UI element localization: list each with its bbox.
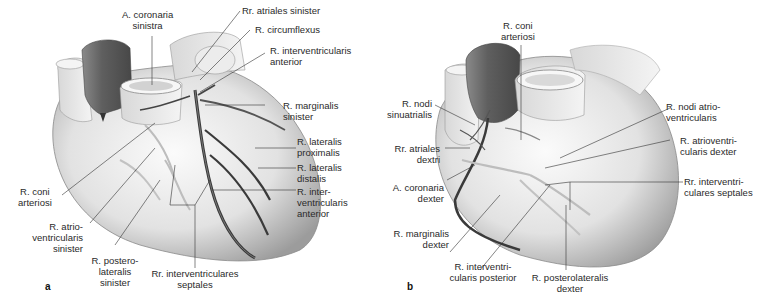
- label-line: proximalis: [297, 147, 342, 158]
- label-a-coronaria-sinistra: A. coronaria sinistra: [122, 9, 173, 31]
- label-line: R. circumflexus: [255, 24, 320, 35]
- label-line: sinister: [30, 243, 83, 254]
- label-r-nodi-sinuatrialis: R. nodi sinuatrialis: [374, 98, 432, 120]
- label-line: Rr. interventri-: [684, 176, 753, 187]
- label-line: culares septales: [684, 187, 753, 198]
- label-line: arteriosi: [18, 197, 52, 208]
- label-line: sinuatrialis: [374, 109, 432, 120]
- label-r-marginalis-sinister: R. marginalis sinister: [283, 100, 338, 122]
- label-line: arteriosi: [501, 31, 535, 42]
- label-line: dexter: [385, 239, 449, 250]
- label-r-posterolateralis-dexter: R. posterolateralis dexter: [528, 272, 612, 294]
- label-line: sinister: [90, 277, 140, 288]
- label-r-atrioventricularis-dexter: R. atrioventri- cularis dexter: [680, 135, 737, 157]
- label-line: ventricularis: [30, 232, 83, 243]
- label-line: anterior: [270, 56, 351, 67]
- label-line: dextri: [374, 154, 440, 165]
- label-r-coni-arteriosi-b: R. coni arteriosi: [501, 20, 535, 42]
- label-line: lateralis: [90, 266, 140, 277]
- label-line: R. lateralis: [297, 136, 342, 147]
- label-line: R. interventricularis: [270, 45, 351, 56]
- label-r-nodi-atrioventricularis: R. nodi atrio- ventricularis: [666, 101, 720, 123]
- label-line: R. postero-: [90, 255, 140, 266]
- label-line: R. atrio-: [30, 221, 83, 232]
- label-line: R. marginalis: [385, 228, 449, 239]
- label-r-interventricularis-anterior: R. inter- ventricularis anterior: [297, 186, 348, 219]
- label-rr-interventriculares-septales-b: Rr. interventri- culares septales: [684, 176, 753, 198]
- label-line: distalis: [297, 173, 342, 184]
- label-r-lateralis-proximalis: R. lateralis proximalis: [297, 136, 342, 158]
- label-line: Rr. atriales: [374, 143, 440, 154]
- label-rr-atriales-sinister: Rr. atriales sinister: [242, 5, 320, 16]
- label-line: sinister: [283, 111, 338, 122]
- heart-b: [436, 43, 679, 267]
- label-rr-interventriculares-septales-a: Rr. interventriculares septales: [150, 268, 240, 290]
- label-line: dexter: [370, 193, 444, 204]
- label-line: anterior: [297, 208, 348, 219]
- label-r-posterolateralis-sinister: R. postero- lateralis sinister: [90, 255, 140, 288]
- label-r-lateralis-distalis: R. lateralis distalis: [297, 162, 342, 184]
- label-line: cularis dexter: [680, 146, 737, 157]
- label-line: R. marginalis: [283, 100, 338, 111]
- label-line: R. atrioventri-: [680, 135, 737, 146]
- label-line: dexter: [528, 283, 612, 294]
- label-line: R. interventri-: [443, 261, 523, 272]
- label-r-atrioventricularis-sinister: R. atrio- ventricularis sinister: [30, 221, 83, 254]
- label-a-coronaria-dexter: A. coronaria dexter: [370, 182, 444, 204]
- label-line: cularis posterior: [443, 272, 523, 283]
- label-line: ventricularis: [297, 197, 348, 208]
- label-rr-atriales-dextri: Rr. atriales dextri: [374, 143, 440, 165]
- label-r-interventricularis-posterior: R. interventri- cularis posterior: [443, 261, 523, 283]
- label-line: R. coni: [501, 20, 535, 31]
- label-line: Rr. interventriculares: [150, 268, 240, 279]
- label-r-coni-arteriosi-a: R. coni arteriosi: [18, 186, 52, 208]
- label-r-marginalis-dexter: R. marginalis dexter: [385, 228, 449, 250]
- label-line: R. lateralis: [297, 162, 342, 173]
- label-line: A. coronaria: [122, 9, 173, 20]
- label-line: R. coni: [18, 186, 52, 197]
- label-line: R. inter-: [297, 186, 348, 197]
- label-line: sinistra: [122, 20, 173, 31]
- label-line: R. nodi: [374, 98, 432, 109]
- panel-letter-a: a: [45, 281, 51, 292]
- label-line: R. nodi atrio-: [666, 101, 720, 112]
- label-line: A. coronaria: [370, 182, 444, 193]
- label-line: Rr. atriales sinister: [242, 5, 320, 16]
- label-line: septales: [150, 279, 240, 290]
- label-r-interventricularis-anterior-top: R. interventricularis anterior: [270, 45, 351, 67]
- label-r-circumflexus: R. circumflexus: [255, 24, 320, 35]
- label-line: ventricularis: [666, 112, 720, 123]
- panel-letter-b: b: [407, 281, 413, 292]
- label-line: R. posterolateralis: [528, 272, 612, 283]
